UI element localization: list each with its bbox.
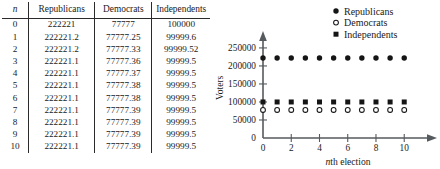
figure-root: n Republicans Democrats Independents 022… (0, 0, 440, 169)
cell-independents: 100000 (152, 19, 210, 32)
cell-republicans: 222221.2 (29, 31, 95, 43)
cell-independents: 99999.5 (152, 117, 210, 129)
data-point-republicans (387, 55, 392, 60)
data-point-independents (317, 99, 322, 104)
data-points-group (260, 55, 407, 112)
data-point-independents (388, 99, 393, 104)
x-tick-label: 10 (400, 143, 410, 153)
data-point-republicans (274, 55, 279, 60)
y-tick-label: 200000 (228, 61, 256, 71)
cell-independents: 99999.52 (152, 43, 210, 55)
data-point-republicans (345, 55, 350, 60)
data-point-democrats (374, 108, 379, 113)
data-point-republicans (303, 55, 308, 60)
column-header-republicans: Republicans (29, 2, 95, 19)
cell-democrats: 77777.38 (95, 80, 152, 92)
data-point-republicans (373, 55, 378, 60)
legend-marker-independents (334, 32, 339, 37)
cell-n: 10 (2, 141, 29, 153)
data-point-democrats (331, 108, 336, 113)
cell-republicans: 222221.1 (29, 117, 95, 129)
data-point-democrats (289, 108, 294, 113)
cell-n: 3 (2, 56, 29, 68)
y-tick-label: 100000 (228, 97, 256, 107)
cell-democrats: 77777.36 (95, 56, 152, 68)
data-point-republicans (317, 55, 322, 60)
legend-label: Republicans (344, 6, 394, 17)
cell-independents: 99999.5 (152, 56, 210, 68)
cell-n: 5 (2, 80, 29, 92)
table-header-row: n Republicans Democrats Independents (2, 2, 210, 19)
cell-democrats: 77777.39 (95, 117, 152, 129)
cell-republicans: 222221.2 (29, 43, 95, 55)
table-row: 3222221.177777.3699999.5 (2, 56, 210, 68)
data-point-independents (289, 99, 294, 104)
table-row: 8222221.177777.3999999.5 (2, 117, 210, 129)
data-point-democrats (303, 108, 308, 113)
cell-independents: 99999.5 (152, 104, 210, 116)
cell-democrats: 77777.37 (95, 68, 152, 80)
data-point-republicans (359, 55, 364, 60)
data-point-independents (331, 99, 336, 104)
cell-independents: 99999.5 (152, 80, 210, 92)
cell-democrats: 77777.39 (95, 129, 152, 141)
data-point-independents (402, 99, 407, 104)
column-header-n: n (2, 2, 29, 19)
cell-independents: 99999.6 (152, 31, 210, 43)
data-point-democrats (388, 108, 393, 113)
table-header: n Republicans Democrats Independents (2, 2, 210, 19)
cell-n: 1 (2, 31, 29, 43)
cell-democrats: 77777.25 (95, 31, 152, 43)
cell-n: 6 (2, 92, 29, 104)
data-point-republicans (331, 55, 336, 60)
column-header-independents: Independents (152, 2, 210, 19)
x-tick-group: 0246810 (261, 134, 410, 153)
y-axis-arrowhead (259, 31, 267, 41)
x-axis-arrowhead (427, 134, 437, 142)
cell-republicans: 222221.1 (29, 80, 95, 92)
cell-democrats: 77777 (95, 19, 152, 32)
chart-legend: RepublicansDemocratsIndependents (333, 6, 397, 40)
y-tick-label: 250000 (228, 43, 256, 53)
data-table-panel: n Republicans Democrats Independents 022… (2, 2, 212, 162)
table-body: 0222221777771000001222221.277777.2599999… (2, 19, 210, 154)
cell-republicans: 222221.1 (29, 68, 95, 80)
y-axis-label: Voters (214, 75, 225, 100)
cell-independents: 99999.5 (152, 68, 210, 80)
y-tick-label: 50000 (233, 115, 257, 125)
table-row: 2222221.277777.3399999.52 (2, 43, 210, 55)
y-tick-label: 0 (251, 133, 256, 143)
cell-republicans: 222221.1 (29, 92, 95, 104)
data-point-republicans (402, 55, 407, 60)
cell-republicans: 222221.1 (29, 129, 95, 141)
data-point-democrats (261, 108, 266, 113)
cell-n: 7 (2, 104, 29, 116)
data-point-democrats (345, 108, 350, 113)
cell-independents: 99999.5 (152, 129, 210, 141)
cell-n: 9 (2, 129, 29, 141)
legend-marker-republicans (333, 8, 338, 13)
cell-independents: 99999.5 (152, 92, 210, 104)
cell-democrats: 77777.38 (95, 92, 152, 104)
cell-independents: 99999.5 (152, 141, 210, 153)
x-tick-label: 2 (289, 143, 294, 153)
x-tick-label: 6 (345, 143, 350, 153)
cell-republicans: 222221.1 (29, 56, 95, 68)
data-point-democrats (402, 108, 407, 113)
table-row: 9222221.177777.3999999.5 (2, 129, 210, 141)
data-point-republicans (260, 55, 265, 60)
cell-republicans: 222221 (29, 19, 95, 32)
x-tick-label: 4 (317, 143, 322, 153)
cell-republicans: 222221.1 (29, 104, 95, 116)
legend-label: Independents (344, 29, 397, 40)
data-point-independents (275, 99, 280, 104)
cell-democrats: 77777.39 (95, 141, 152, 153)
cell-n: 4 (2, 68, 29, 80)
data-point-democrats (275, 108, 280, 113)
table-row: 7222221.177777.3999999.5 (2, 104, 210, 116)
scatter-chart-panel: 050000100000150000200000250000 0246810 V… (212, 0, 440, 169)
cell-republicans: 222221.1 (29, 141, 95, 153)
x-tick-label: 8 (374, 143, 379, 153)
data-point-democrats (359, 108, 364, 113)
chart-svg: 050000100000150000200000250000 0246810 V… (212, 0, 440, 169)
